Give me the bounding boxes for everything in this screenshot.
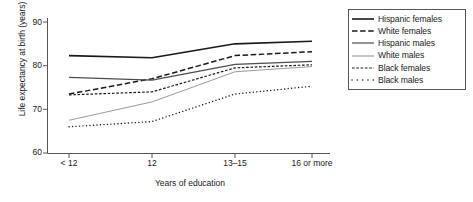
life-expectancy-chart: Life expectancy at birth (years) 90 80 7… bbox=[0, 0, 473, 202]
legend-item-black-females: Black females bbox=[352, 62, 461, 74]
series-line bbox=[69, 41, 312, 58]
x-tick-label-13-15: 13–15 bbox=[223, 158, 247, 168]
chart-legend: Hispanic females White females Hispanic … bbox=[348, 9, 466, 90]
solid-gray-line-icon bbox=[352, 38, 374, 48]
legend-item-white-males: White males bbox=[352, 50, 461, 62]
series-line bbox=[69, 61, 312, 80]
legend-label: Hispanic females bbox=[378, 15, 442, 24]
x-tick-label-16-or-more: 16 or more bbox=[291, 158, 332, 168]
dashed-line-icon bbox=[352, 26, 374, 36]
solid-line-icon bbox=[352, 14, 374, 24]
legend-label: White males bbox=[378, 51, 424, 60]
legend-item-black-males: Black males bbox=[352, 74, 461, 86]
solid-light-line-icon bbox=[352, 51, 374, 61]
legend-item-hispanic-females: Hispanic females bbox=[352, 13, 461, 25]
dotted-line-icon bbox=[352, 75, 374, 85]
legend-item-white-females: White females bbox=[352, 25, 461, 37]
legend-item-hispanic-males: Hispanic males bbox=[352, 37, 461, 49]
series-line bbox=[69, 86, 312, 127]
x-tick-label-lt12: < 12 bbox=[61, 158, 78, 168]
series-lines bbox=[69, 41, 312, 127]
legend-label: Black females bbox=[378, 64, 430, 73]
legend-label: Hispanic males bbox=[378, 39, 435, 48]
x-axis-title: Years of education bbox=[60, 178, 320, 188]
x-tick-label-12: 12 bbox=[147, 158, 156, 168]
legend-label: White females bbox=[378, 27, 431, 36]
fine-dashed-line-icon bbox=[352, 63, 374, 73]
legend-label: Black males bbox=[378, 76, 423, 85]
